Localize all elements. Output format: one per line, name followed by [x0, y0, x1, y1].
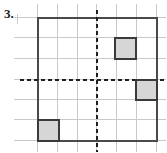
shaded-square-right-edge [136, 80, 157, 101]
grid-figure-svg [0, 0, 167, 153]
figure-container: 3. [0, 0, 167, 153]
shaded-square-lower-left [38, 120, 59, 141]
shaded-square-upper-right [115, 38, 136, 59]
